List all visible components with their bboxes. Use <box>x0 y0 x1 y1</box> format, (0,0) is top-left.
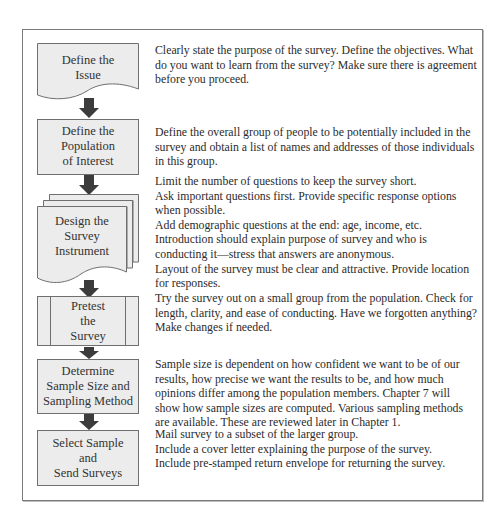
step-pretest-box: Pretest the Survey <box>37 296 139 346</box>
label-line: Define the <box>37 53 139 68</box>
step-label: Design the Survey Instrument <box>37 214 127 259</box>
label-line: Select Sample <box>37 436 139 451</box>
description-line: Limit the number of questions to keep th… <box>155 174 480 189</box>
label-line: Population <box>37 139 139 154</box>
step-determine-sample-box: Determine Sample Size and Sampling Metho… <box>37 359 139 414</box>
description-line: Define the overall group of people to be… <box>155 125 480 140</box>
description-line: in this group. <box>155 154 480 169</box>
description-line: Include a cover letter explaining the pu… <box>155 442 480 457</box>
label-line: Design the <box>37 214 127 229</box>
description-line: Ask important questions first. Provide s… <box>155 189 480 204</box>
down-arrow-icon <box>79 98 99 118</box>
step-label: Select Sample and Send Surveys <box>37 436 139 481</box>
step-select-sample-box: Select Sample and Send Surveys <box>37 430 139 486</box>
label-line: and <box>37 451 139 466</box>
description-line: conducting it—stress that answers are an… <box>155 247 480 262</box>
label-line: Sampling Method <box>37 394 139 409</box>
description-line: Clearly state the purpose of the survey.… <box>155 43 480 58</box>
description-line: do you want to learn from the survey? Ma… <box>155 58 480 73</box>
description-line: show how sample sizes are computed. Vari… <box>155 401 480 416</box>
step-design-survey-description: Limit the number of questions to keep th… <box>155 174 480 291</box>
label-line: Pretest <box>37 299 139 314</box>
description-line: Layout of the survey must be clear and a… <box>155 262 480 277</box>
step-label: Define the Issue <box>37 53 139 83</box>
down-arrow-icon <box>79 175 99 195</box>
description-line: Try the survey out on a small group from… <box>155 291 480 306</box>
step-label: Pretest the Survey <box>37 299 139 344</box>
down-arrow-icon <box>79 414 99 430</box>
label-line: Determine <box>37 364 139 379</box>
step-define-population-box: Define the Population of Interest <box>37 119 139 175</box>
label-line: the <box>37 314 139 329</box>
step-select-sample-description: Mail survey to a subset of the larger gr… <box>155 427 480 471</box>
description-line: results, how precise we want the results… <box>155 372 480 387</box>
description-line: Add demographic questions at the end: ag… <box>155 218 480 233</box>
description-line: Include pre-stamped return envelope for … <box>155 456 480 471</box>
description-line: for responses. <box>155 276 480 291</box>
description-line: opinions differ among the population mem… <box>155 386 480 401</box>
step-define-population-description: Define the overall group of people to be… <box>155 125 480 169</box>
description-line: Mail survey to a subset of the larger gr… <box>155 427 480 442</box>
description-line: before you proceed. <box>155 72 480 87</box>
description-line: Make changes if needed. <box>155 320 480 335</box>
description-line: length, clarity, and ease of conducting.… <box>155 306 480 321</box>
label-line: Sample Size and <box>37 379 139 394</box>
label-line: Send Surveys <box>37 466 139 481</box>
description-line: Sample size is dependent on how confiden… <box>155 357 480 372</box>
step-define-issue-description: Clearly state the purpose of the survey.… <box>155 43 480 87</box>
down-arrow-icon <box>79 347 99 359</box>
step-label: Define the Population of Interest <box>37 124 139 169</box>
step-label: Determine Sample Size and Sampling Metho… <box>37 364 139 409</box>
step-pretest-description: Try the survey out on a small group from… <box>155 291 480 335</box>
description-line: Introduction should explain purpose of s… <box>155 232 480 247</box>
label-line: Define the <box>37 124 139 139</box>
label-line: Issue <box>37 68 139 83</box>
description-line: survey and obtain a list of names and ad… <box>155 140 480 155</box>
label-line: of Interest <box>37 154 139 169</box>
label-line: Survey <box>37 329 139 344</box>
label-line: Instrument <box>37 244 127 259</box>
step-define-issue-box: Define the Issue <box>37 43 139 99</box>
step-design-survey-box: Design the Survey Instrument <box>37 194 139 286</box>
description-line: when possible. <box>155 203 480 218</box>
step-determine-sample-description: Sample size is dependent on how confiden… <box>155 357 480 430</box>
label-line: Survey <box>37 229 127 244</box>
